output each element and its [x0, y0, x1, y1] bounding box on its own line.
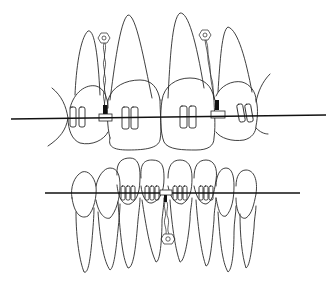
- bracket-u1b: [79, 107, 85, 127]
- upper-tooth-lateral-right: [216, 27, 258, 141]
- bracket-u4b: [244, 104, 253, 123]
- upper-gum-left: [48, 88, 68, 146]
- lower-tooth-5: [168, 160, 192, 262]
- upper-archwire: [11, 115, 326, 119]
- lower-tooth-8: [236, 170, 257, 268]
- lower-arch: [45, 158, 300, 272]
- hex-anchor-icon: [161, 234, 175, 244]
- lower-tooth-2: [96, 168, 120, 270]
- lower-tooth-1: [71, 172, 96, 273]
- dental-braces-diagram: Orthodontic braces with archwire and ela…: [0, 0, 335, 288]
- lower-tooth-3: [117, 158, 140, 268]
- lower-tooth-4: [141, 160, 164, 262]
- lower-tooth-7: [216, 168, 236, 272]
- upper-left-traction-chain: [98, 33, 112, 121]
- upper-arch: [11, 13, 326, 150]
- upper-right-traction-chain: [199, 30, 225, 118]
- upper-tooth-central-left: [107, 15, 160, 150]
- diagram-svg: [0, 0, 335, 288]
- bracket-u4a: [236, 104, 245, 123]
- hex-anchor-icon: [199, 30, 211, 40]
- bracket-u1a: [70, 107, 76, 127]
- traction-bracket: [160, 190, 172, 195]
- upper-gum-right: [256, 74, 270, 102]
- hex-anchor-icon: [98, 33, 110, 43]
- lower-tooth-6: [194, 160, 217, 266]
